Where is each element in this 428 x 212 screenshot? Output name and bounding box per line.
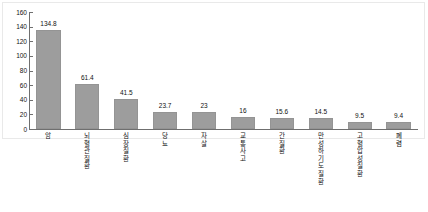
y-axis-tick-label: 140 (3, 23, 27, 30)
bar[interactable] (75, 84, 99, 129)
y-axis-tick-label-wrap: 80 (0, 67, 27, 74)
bar-value-label: 61.4 (81, 74, 94, 82)
bar-slot[interactable]: 9.5 (348, 12, 372, 129)
category-label: 폐렴 (379, 133, 418, 148)
bar[interactable] (36, 30, 60, 129)
y-axis-tick-label-wrap: 60 (0, 82, 27, 89)
y-axis-tick-label-wrap: 120 (0, 38, 27, 45)
category-label: 심장질환 (107, 133, 146, 163)
bar[interactable] (348, 122, 372, 129)
category-label-slot: 고혈압성질환 (340, 133, 379, 209)
bar[interactable] (270, 118, 294, 129)
category-label: 만성하기도질환 (301, 133, 340, 186)
bar-slot[interactable]: 41.5 (114, 12, 138, 129)
bar[interactable] (309, 118, 333, 129)
category-label: 고혈압성질환 (340, 133, 379, 179)
category-label-slot: 폐렴 (379, 133, 418, 209)
y-axis-tick-label: 100 (3, 52, 27, 59)
bar-slot[interactable]: 61.4 (75, 12, 99, 129)
y-axis-tick-label-wrap: 20 (0, 111, 27, 118)
bar-value-label: 14.5 (314, 108, 327, 116)
y-axis-tick-label-wrap: 0 (0, 126, 27, 133)
category-label-slot: 교통사고 (224, 133, 263, 209)
bar-value-label: 41.5 (120, 89, 133, 97)
category-label-slot: 간질환 (262, 133, 301, 209)
x-axis-line (29, 129, 418, 130)
bar-value-label: 9.5 (355, 112, 364, 120)
category-label: 당뇨 (146, 133, 185, 148)
bar-slot[interactable]: 16 (231, 12, 255, 129)
plot-area: 134.861.441.523.7231615.614.59.59.4 (29, 12, 418, 129)
bar-slot[interactable]: 134.8 (36, 12, 60, 129)
category-label: 간질환 (262, 133, 301, 156)
category-label-slot: 뇌혈관질환 (68, 133, 107, 209)
category-label-slot: 자살 (185, 133, 224, 209)
category-label-slot: 당뇨 (146, 133, 185, 209)
y-axis-tick-label-wrap: 100 (0, 52, 27, 59)
y-axis-tick-label: 80 (3, 67, 27, 74)
bar[interactable] (192, 112, 216, 129)
y-axis-tick-label: 160 (3, 9, 27, 16)
bar-slot[interactable]: 14.5 (309, 12, 333, 129)
category-label: 자살 (185, 133, 224, 148)
y-axis-tick-label: 20 (3, 111, 27, 118)
category-label: 암 (29, 133, 68, 141)
bar-slot[interactable]: 9.4 (386, 12, 410, 129)
y-axis-tick-label: 40 (3, 96, 27, 103)
bar-value-label: 9.4 (394, 112, 403, 120)
bar-value-label: 16 (239, 107, 246, 115)
bar-value-label: 23.7 (159, 102, 172, 110)
bar[interactable] (231, 117, 255, 129)
bar[interactable] (386, 122, 410, 129)
y-axis-tick-label-wrap: 160 (0, 9, 27, 16)
bar-slot[interactable]: 23.7 (153, 12, 177, 129)
bar-value-label: 134.8 (40, 20, 56, 28)
y-axis-tick-label: 120 (3, 38, 27, 45)
bar[interactable] (114, 99, 138, 129)
category-label-slot: 심장질환 (107, 133, 146, 209)
category-label-slot: 암 (29, 133, 68, 209)
y-axis-tick-label: 0 (3, 126, 27, 133)
y-axis-tick-label-wrap: 40 (0, 96, 27, 103)
bar-slot[interactable]: 23 (192, 12, 216, 129)
category-label: 교통사고 (224, 133, 263, 163)
category-label: 뇌혈관질환 (68, 133, 107, 171)
category-label-slot: 만성하기도질환 (301, 133, 340, 209)
bar-chart: 020406080100120140160 134.861.441.523.72… (0, 0, 428, 212)
bar-slot[interactable]: 15.6 (270, 12, 294, 129)
bar-value-label: 15.6 (276, 108, 289, 116)
x-axis-category-labels: 암뇌혈관질환심장질환당뇨자살교통사고간질환만성하기도질환고혈압성질환폐렴 (29, 133, 418, 209)
y-axis-tick-label-wrap: 140 (0, 23, 27, 30)
bar[interactable] (153, 112, 177, 129)
bar-value-label: 23 (200, 102, 207, 110)
y-axis-tick-label: 60 (3, 82, 27, 89)
